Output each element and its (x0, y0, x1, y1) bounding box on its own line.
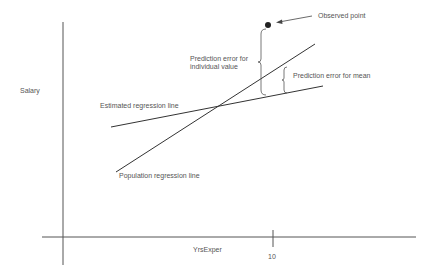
brace-individual-icon (258, 29, 266, 95)
observed-point-label: Observed point (318, 11, 365, 20)
prediction-error-mean-label: Prediction error for mean (293, 71, 370, 80)
brace-mean-icon (282, 67, 287, 93)
prediction-error-individual-label-2: individual value (190, 62, 238, 71)
x-tick-label: 10 (268, 252, 276, 261)
observed-point (265, 22, 271, 28)
x-axis-label: YrsExper (193, 245, 222, 254)
observed-point-arrow (279, 16, 312, 22)
population-regression-line-label: Population regression line (119, 171, 200, 180)
estimated-regression-line-label: Estimated regression line (100, 101, 179, 110)
arrowhead-icon (276, 20, 283, 25)
regression-diagram (0, 0, 432, 278)
y-axis-label: Salary (20, 86, 40, 95)
